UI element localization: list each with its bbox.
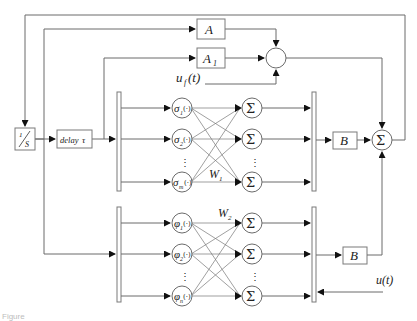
svg-text:1: 1 — [19, 131, 23, 139]
svg-text:B: B — [340, 133, 348, 148]
svg-text:2: 2 — [228, 214, 232, 222]
sigma-node-1: σ 1 (·) — [172, 98, 192, 118]
svg-text:Σ: Σ — [246, 175, 255, 190]
sigma-node-2: σ 2 (·) — [172, 129, 192, 149]
upper-output-bar — [312, 92, 316, 191]
top-summing-junction — [266, 48, 286, 68]
svg-text:Σ: Σ — [246, 101, 255, 116]
integrator-block: 1 S — [15, 128, 35, 150]
state-to-A-line — [35, 29, 195, 139]
svg-text:⋮: ⋮ — [250, 271, 260, 282]
delay-block: delay τ — [57, 130, 92, 148]
phi-node-2: φ 2 (·) — [172, 244, 192, 264]
upper-network: σ 1 (·) σ 2 (·) ⋮ σ m (·) W 1 Σ Σ ⋮ Σ — [121, 98, 310, 192]
u-signal-label: u(t) — [376, 273, 393, 287]
svg-text:B: B — [350, 248, 358, 263]
svg-text:Σ: Σ — [246, 216, 255, 231]
svg-text:Σ: Σ — [246, 289, 255, 304]
svg-text:(·): (·) — [184, 179, 192, 187]
svg-text:A: A — [204, 22, 213, 37]
A-block: A — [197, 19, 225, 39]
uf-signal-label: u f (t) — [176, 70, 200, 87]
B-upper-block: B — [333, 132, 357, 149]
lower-B-to-main-sum-line — [367, 152, 382, 255]
A-to-sum-line — [225, 29, 276, 46]
svg-text:S: S — [25, 140, 29, 149]
svg-text:u: u — [176, 70, 183, 85]
lower-input-bar — [117, 207, 121, 302]
uf-to-sum-line — [205, 70, 276, 84]
state-to-lower-bar-line — [44, 139, 115, 254]
sigma-node-m: σ m (·) — [172, 172, 192, 192]
svg-text:Σ: Σ — [246, 132, 255, 147]
neural-network-block-diagram: 1 S delay τ A A 1 u f (t) — [0, 0, 417, 321]
phi-node-1: φ 1 (·) — [172, 213, 192, 233]
svg-text:delay: delay — [60, 135, 79, 145]
weight-label-W1: W 1 — [209, 167, 223, 183]
svg-text:(·): (·) — [183, 220, 191, 228]
svg-text:1: 1 — [219, 175, 223, 183]
svg-text:A: A — [202, 51, 211, 66]
phi-ellipsis: ⋮ — [180, 271, 190, 282]
sum-to-main-sum-line — [286, 58, 382, 128]
upper-input-bar — [117, 92, 121, 191]
A1-block: A 1 — [197, 48, 225, 68]
main-summing-junction: Σ — [372, 130, 392, 150]
weight-label-W2: W 2 — [218, 206, 232, 222]
svg-text:(·): (·) — [183, 136, 191, 144]
svg-text:(·): (·) — [183, 293, 191, 301]
phi-node-n: φ n (·) — [172, 286, 192, 306]
figure-caption: Figure — [2, 312, 25, 321]
svg-text:(·): (·) — [183, 105, 191, 113]
svg-text:Σ: Σ — [246, 247, 255, 262]
lower-output-bar — [312, 207, 316, 302]
sigma-ellipsis: ⋮ — [180, 157, 190, 168]
lower-network: φ 1 (·) φ 2 (·) ⋮ φ n (·) W 2 Σ Σ ⋮ Σ — [121, 206, 310, 306]
svg-text:(t): (t) — [188, 70, 200, 85]
B-lower-block: B — [343, 247, 367, 264]
svg-text:(·): (·) — [183, 251, 191, 259]
svg-text:Σ: Σ — [376, 133, 385, 148]
svg-text:1: 1 — [213, 59, 217, 68]
svg-text:⋮: ⋮ — [250, 157, 260, 168]
